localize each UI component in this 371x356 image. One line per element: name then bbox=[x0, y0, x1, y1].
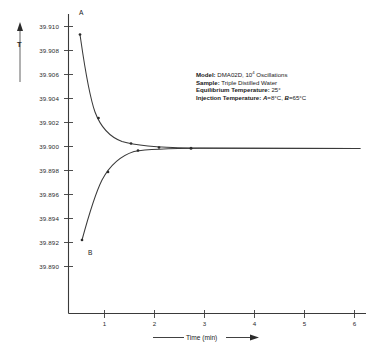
annotation-value-equilibrium-temperature: 25° bbox=[271, 86, 280, 93]
y-tick-label: 39.896 bbox=[19, 191, 59, 198]
x-tick-label: 5 bbox=[298, 320, 312, 327]
y-tick-label: 39.894 bbox=[19, 215, 59, 222]
curve-label-b: B bbox=[88, 249, 92, 256]
annotation-line-model: Model: DMA02D, 104 Oscillations bbox=[196, 69, 306, 79]
annotation-value-model-tail: Oscillations bbox=[255, 71, 288, 78]
curve-label-a: A bbox=[79, 9, 83, 16]
y-tick-label: 39.906 bbox=[19, 71, 59, 78]
curve-series-b bbox=[82, 148, 360, 240]
y-tick-label: 39.890 bbox=[19, 263, 59, 270]
y-tick-label: 39.902 bbox=[19, 119, 59, 126]
annotation-line-equilibrium-temperature: Equilibrium Temperature: 25° bbox=[196, 86, 306, 94]
annotation-line-injection-temperature: Injection Temperature: A=8°C, B=65°C bbox=[196, 94, 306, 102]
annotation-key-model: Model: bbox=[196, 71, 216, 78]
thermal-equilibration-chart: T bbox=[0, 0, 371, 356]
annotation-key-sample: Sample: bbox=[196, 79, 220, 86]
y-tick-label: 39.908 bbox=[19, 47, 59, 54]
y-tick-label: 39.910 bbox=[19, 23, 59, 30]
annotation-value-sample: Triple Distilled Water bbox=[221, 79, 277, 86]
annotation-value-model: DMA02D, 10 bbox=[217, 71, 252, 78]
x-tick-label: 3 bbox=[198, 320, 212, 327]
x-tick-label: 6 bbox=[348, 320, 362, 327]
y-tick-label: 39.892 bbox=[19, 239, 59, 246]
x-axis-title: Time (min) bbox=[186, 334, 217, 341]
data-point-markers bbox=[79, 33, 193, 241]
annotation-line-sample: Sample: Triple Distilled Water bbox=[196, 79, 306, 87]
annotation-value-a: =8°C, bbox=[267, 94, 282, 101]
annotation-block: Model: DMA02D, 104 Oscillations Sample: … bbox=[196, 69, 306, 101]
x-tick-label: 2 bbox=[148, 320, 162, 327]
annotation-key-injection-temperature: Injection Temperature: bbox=[196, 94, 261, 101]
y-tick-label: 39.898 bbox=[19, 167, 59, 174]
annotation-key-equilibrium-temperature: Equilibrium Temperature: bbox=[196, 86, 270, 93]
y-tick-label: 39.904 bbox=[19, 95, 59, 102]
y-tick-label: 39.900 bbox=[19, 143, 59, 150]
x-tick-label: 4 bbox=[248, 320, 262, 327]
x-tick-label: 1 bbox=[98, 320, 112, 327]
annotation-value-b: =65°C bbox=[289, 94, 306, 101]
